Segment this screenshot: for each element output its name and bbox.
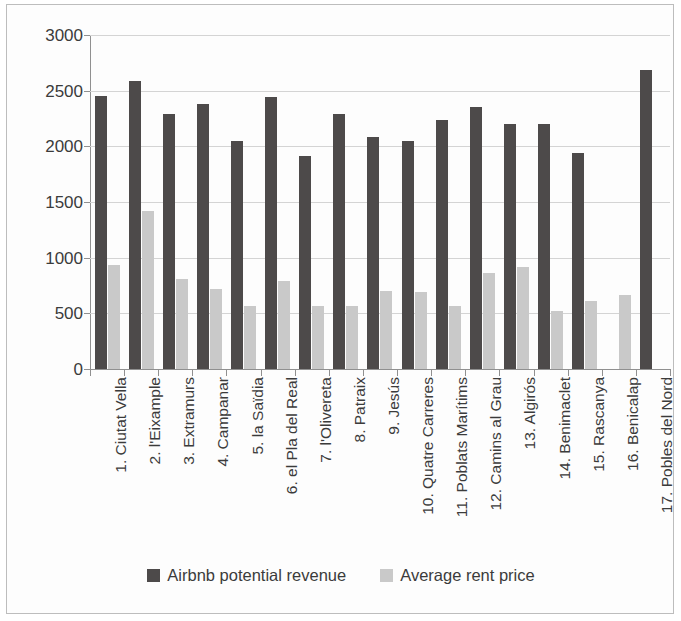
x-axis-tick-mark bbox=[465, 369, 466, 376]
y-axis-tick-labels: 300025002000150010005000 bbox=[15, 5, 83, 621]
x-axis-tick-mark bbox=[568, 369, 569, 376]
bar-average-rent-price bbox=[142, 211, 154, 369]
bar-average-rent-price bbox=[312, 306, 324, 369]
bar-group bbox=[261, 35, 295, 369]
x-axis-category-label: 4. Campanar bbox=[215, 377, 231, 467]
x-axis-tick-mark bbox=[499, 369, 500, 376]
bar-airbnb-potential-revenue bbox=[470, 107, 482, 369]
x-axis-tick-mark bbox=[636, 369, 637, 376]
bar-group bbox=[192, 35, 226, 369]
legend-item: Average rent price bbox=[380, 567, 535, 584]
x-axis-category-label: 7. l'Olivereta bbox=[318, 377, 334, 463]
x-axis-category-label: 1. Ciutat Vella bbox=[113, 377, 129, 473]
bar-group bbox=[158, 35, 192, 369]
x-axis-tick-mark bbox=[534, 369, 535, 376]
bar-group bbox=[602, 35, 636, 369]
x-axis-category-label: 10. Quatre Carreres bbox=[420, 377, 436, 515]
x-axis-category-label: 14. Benimaclet bbox=[557, 377, 573, 480]
y-axis-tick-mark bbox=[84, 202, 90, 203]
bar-airbnb-potential-revenue bbox=[163, 114, 175, 369]
x-axis-category-label: 15. Rascanya bbox=[591, 377, 607, 472]
bar-average-rent-price bbox=[585, 301, 597, 369]
bar-average-rent-price bbox=[108, 265, 120, 369]
bar-average-rent-price bbox=[517, 267, 529, 369]
y-axis-tick-label: 500 bbox=[21, 305, 83, 322]
bar-average-rent-price bbox=[210, 289, 222, 369]
chart-frame: 300025002000150010005000 1. Ciutat Vella… bbox=[6, 4, 674, 614]
bar-airbnb-potential-revenue bbox=[572, 153, 584, 369]
bar-airbnb-potential-revenue bbox=[95, 96, 107, 369]
bar-average-rent-price bbox=[244, 306, 256, 369]
bar-airbnb-potential-revenue bbox=[402, 141, 414, 369]
bar-airbnb-potential-revenue bbox=[333, 114, 345, 370]
bar-airbnb-potential-revenue bbox=[538, 124, 550, 369]
bar-airbnb-potential-revenue bbox=[265, 97, 277, 369]
x-axis-category-label: 8. Patraix bbox=[352, 377, 368, 442]
y-axis-tick-mark bbox=[84, 91, 90, 92]
x-axis-category-label: 5. la Saïdia bbox=[250, 377, 266, 455]
x-axis-tick-mark bbox=[295, 369, 296, 376]
x-axis-tick-mark bbox=[329, 369, 330, 376]
bar-average-rent-price bbox=[483, 273, 495, 369]
x-axis-tick-mark bbox=[397, 369, 398, 376]
bar-airbnb-potential-revenue bbox=[129, 81, 141, 369]
bar-average-rent-price bbox=[176, 279, 188, 369]
x-axis-tick-mark bbox=[431, 369, 432, 376]
x-axis-tick-mark bbox=[192, 369, 193, 376]
bar-group bbox=[431, 35, 465, 369]
y-axis-tick-mark bbox=[84, 35, 90, 36]
bar-average-rent-price bbox=[415, 292, 427, 369]
bar-group bbox=[90, 35, 124, 369]
y-axis-tick-label: 1500 bbox=[21, 194, 83, 211]
bar-group bbox=[534, 35, 568, 369]
bar-airbnb-potential-revenue bbox=[504, 124, 516, 369]
x-axis-category-label: 16. Benicalap bbox=[625, 377, 641, 471]
x-axis-tick-mark bbox=[363, 369, 364, 376]
x-axis-tick-mark bbox=[602, 369, 603, 376]
bar-airbnb-potential-revenue bbox=[640, 70, 652, 369]
x-axis-category-label: 6. el Pla del Real bbox=[284, 377, 300, 494]
bar-group bbox=[568, 35, 602, 369]
bar-group bbox=[226, 35, 260, 369]
y-axis-tick-label: 0 bbox=[21, 361, 83, 378]
bar-group bbox=[636, 35, 670, 369]
x-axis-category-label: 12. Camins al Grau bbox=[488, 377, 504, 511]
bar-average-rent-price bbox=[449, 306, 461, 369]
y-axis-tick-label: 3000 bbox=[21, 27, 83, 44]
legend-item: Airbnb potential revenue bbox=[147, 567, 346, 584]
bar-group bbox=[397, 35, 431, 369]
legend-swatch-icon bbox=[380, 569, 393, 582]
bar-group bbox=[124, 35, 158, 369]
x-axis-category-label: 13. Algirós bbox=[522, 377, 538, 449]
bar-airbnb-potential-revenue bbox=[436, 120, 448, 369]
bar-airbnb-potential-revenue bbox=[299, 156, 311, 369]
bar-average-rent-price bbox=[619, 295, 631, 369]
x-axis-category-label: 3. Extramurs bbox=[181, 377, 197, 465]
x-axis-tick-mark bbox=[158, 369, 159, 376]
bar-group bbox=[295, 35, 329, 369]
bar-average-rent-price bbox=[551, 311, 563, 369]
y-axis-tick-mark bbox=[84, 146, 90, 147]
chart-legend: Airbnb potential revenueAverage rent pri… bbox=[7, 567, 675, 584]
bar-group bbox=[499, 35, 533, 369]
x-axis-tick-mark bbox=[124, 369, 125, 376]
y-axis-tick-label: 2500 bbox=[21, 82, 83, 99]
x-axis-category-label: 11. Poblats Marítims bbox=[454, 377, 470, 517]
bar-group bbox=[363, 35, 397, 369]
bar-group bbox=[465, 35, 499, 369]
y-axis-tick-label: 1000 bbox=[21, 249, 83, 266]
bar-airbnb-potential-revenue bbox=[197, 104, 209, 369]
legend-label: Airbnb potential revenue bbox=[167, 567, 346, 584]
bar-average-rent-price bbox=[346, 306, 358, 369]
bar-group bbox=[329, 35, 363, 369]
bar-airbnb-potential-revenue bbox=[367, 137, 379, 369]
y-axis-tick-mark bbox=[84, 313, 90, 314]
x-axis-category-labels: 1. Ciutat Vella2. l'Eixample3. Extramurs… bbox=[90, 377, 670, 557]
bar-average-rent-price bbox=[278, 281, 290, 370]
y-axis-tick-mark bbox=[84, 258, 90, 259]
x-axis-category-label: 2. l'Eixample bbox=[147, 377, 163, 464]
y-axis-tick-label: 2000 bbox=[21, 138, 83, 155]
bar-airbnb-potential-revenue bbox=[231, 141, 243, 369]
x-axis-tick-mark bbox=[670, 369, 671, 376]
legend-label: Average rent price bbox=[400, 567, 535, 584]
